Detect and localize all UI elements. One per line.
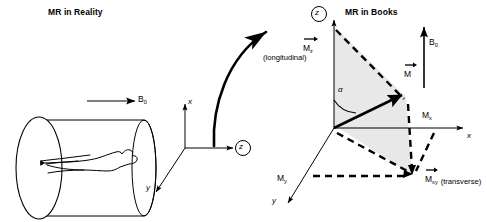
alpha-angle-label: α [338,85,343,94]
z-circle-right [312,7,327,22]
my-subscript: y [284,178,287,184]
axis-label-y-right: y [272,196,276,205]
mxy-note-transverse: (transverse) [441,177,482,186]
b0-label-right: B0 [429,31,438,49]
axes-left [156,104,233,192]
z-circle-left [236,141,251,156]
axis-label-y-left: y [146,183,150,192]
mz-note-longitudinal: (longitudinal) [263,53,306,62]
figure-canvas: MR in Reality MR in Books B0 x y z z x y… [0,0,487,222]
vector-label-mxy: Mxy (transverse) [425,167,481,186]
axis-label-x-left: x [188,97,192,106]
mx-subscript: x [429,115,432,121]
axis-y-right [288,128,334,203]
curved-transition-arrow [214,32,266,146]
page-title-right: MR in Books [345,7,398,17]
b0-subscript-left: 0 [144,99,147,105]
b0-subscript-right: 0 [435,42,438,48]
axis-label-z-right: z [315,8,319,17]
axis-label-x-right: x [467,131,471,140]
scanner-cylinder [16,117,156,219]
b0-symbol-right: B [429,37,435,47]
vector-label-mx: Mx [422,104,432,122]
diagram-svg [0,0,487,222]
page-title-left: MR in Reality [48,7,103,17]
mz-subscript: z [310,48,313,54]
axis-label-z-left: z [239,142,243,151]
b0-symbol-left: B [138,94,144,104]
mxy-subscript: xy [432,179,438,185]
vector-label-m: M [404,62,411,81]
m-symbol: M [404,69,411,79]
b0-label-left: B0 [138,88,147,106]
vector-label-my: My [277,167,287,185]
